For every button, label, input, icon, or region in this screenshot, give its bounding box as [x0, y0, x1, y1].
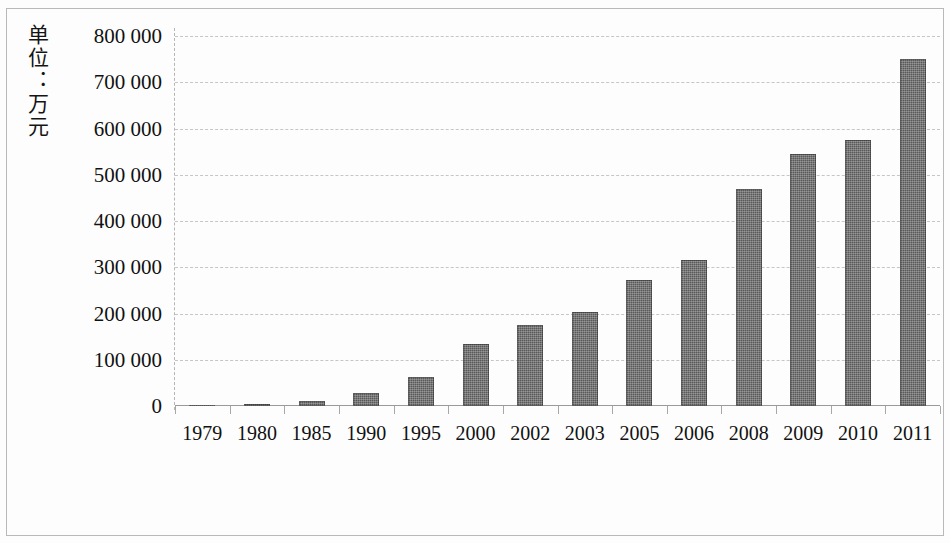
bar-cell: [885, 36, 940, 406]
bar: [845, 140, 871, 406]
bar-series: [175, 36, 940, 406]
bar: [736, 189, 762, 406]
bar-cell: [175, 36, 230, 406]
bar: [900, 59, 926, 406]
x-axis-tick-mark: [394, 406, 395, 414]
bar-cell: [776, 36, 831, 406]
bar: [790, 154, 816, 406]
y-axis-tick-label: 400 000: [94, 211, 162, 232]
x-axis-tick-label: 2002: [503, 416, 558, 450]
bar: [626, 280, 652, 406]
bar: [572, 312, 598, 406]
x-axis-tick-label: 2000: [448, 416, 503, 450]
x-axis-tick-mark: [776, 406, 777, 414]
bar-cell: [284, 36, 339, 406]
y-axis-tick-label: 700 000: [94, 72, 162, 93]
x-axis-tick-mark: [612, 406, 613, 414]
x-axis-tick-label: 1979: [175, 416, 230, 450]
y-axis-tick-label: 0: [152, 396, 163, 417]
x-axis-tick-marks: [175, 406, 940, 415]
x-axis-tick-mark: [175, 406, 176, 414]
x-axis-tick-mark: [831, 406, 832, 414]
x-axis-tick-label: 2003: [557, 416, 612, 450]
x-axis-tick-mark: [230, 406, 231, 414]
bar-cell: [394, 36, 449, 406]
bar-cell: [230, 36, 285, 406]
scanned-page: 单位：万元 800 000 700 000 600 000 500 000 40…: [0, 0, 950, 543]
x-axis-tick-label: 2011: [885, 416, 940, 450]
bar-cell: [667, 36, 722, 406]
x-axis-tick-label: 2006: [667, 416, 722, 450]
bar-cell: [721, 36, 776, 406]
x-axis-tick-label: 1995: [394, 416, 449, 450]
bar-cell: [831, 36, 886, 406]
y-axis-title: 单位：万元: [14, 24, 48, 139]
x-axis-tick-mark: [667, 406, 668, 414]
y-axis-tick-label: 500 000: [94, 164, 162, 185]
y-axis-tick-label: 100 000: [94, 349, 162, 370]
x-axis-tick-label: 2005: [612, 416, 667, 450]
x-axis-tick-mark: [558, 406, 559, 414]
bar-cell: [339, 36, 394, 406]
x-axis-tick-mark: [339, 406, 340, 414]
x-axis-tick-mark: [940, 406, 941, 414]
bar-cell: [448, 36, 503, 406]
bar: [681, 260, 707, 406]
y-axis-tick-label: 200 000: [94, 303, 162, 324]
y-axis-tick-label: 300 000: [94, 257, 162, 278]
x-axis-tick-label: 1990: [339, 416, 394, 450]
bar-cell: [557, 36, 612, 406]
y-axis-tick-label: 600 000: [94, 118, 162, 139]
x-axis-tick-label: 2009: [776, 416, 831, 450]
bar: [408, 377, 434, 406]
bar: [353, 393, 379, 406]
x-axis-tick-label: 2010: [831, 416, 886, 450]
x-axis-tick-mark: [885, 406, 886, 414]
x-axis-tick-label: 2008: [721, 416, 776, 450]
bar-cell: [503, 36, 558, 406]
x-axis-tick-mark: [721, 406, 722, 414]
x-axis-tick-label: 1985: [284, 416, 339, 450]
x-axis-tick-mark: [448, 406, 449, 414]
bar-chart: 单位：万元 800 000 700 000 600 000 500 000 40…: [0, 0, 950, 470]
y-axis-tick-labels: 800 000 700 000 600 000 500 000 400 000 …: [58, 0, 170, 470]
bar: [463, 344, 489, 406]
x-axis-tick-mark: [503, 406, 504, 414]
bar: [517, 325, 543, 406]
plot-area: [175, 36, 940, 406]
x-axis-tick-mark: [284, 406, 285, 414]
x-axis-tick-label: 1980: [230, 416, 285, 450]
x-axis-tick-labels: 1979198019851990199520002002200320052006…: [175, 416, 940, 450]
bar-cell: [612, 36, 667, 406]
y-axis-tick-label: 800 000: [94, 26, 162, 47]
